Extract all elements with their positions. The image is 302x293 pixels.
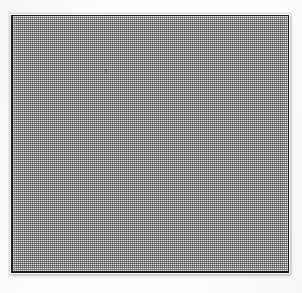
scanned-page: halftone-dot-screen [0,0,302,293]
halftone-dot-screen-offset-layer [13,16,288,271]
page-caption [0,0,1,1]
halftone-square-plate [10,14,290,274]
scan-speck-artifact [105,69,108,73]
plate-description: halftone-dot-screen [0,0,1,1]
plate-frame-rule [11,15,289,273]
